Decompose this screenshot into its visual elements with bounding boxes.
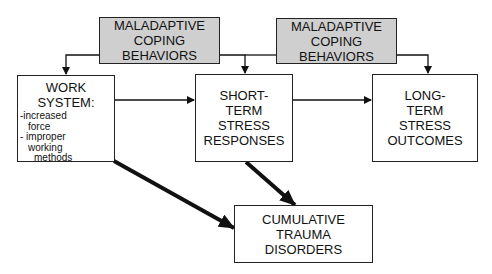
node-label: LONG- — [404, 88, 445, 103]
node-long-term-stress-outcomes: LONG- TERM STRESS OUTCOMES — [372, 74, 478, 162]
node-label: RESPONSES — [204, 133, 285, 148]
arrow-coping-right-to-long-term — [397, 55, 428, 73]
arrow-coping-left-to-short-term — [220, 55, 245, 73]
arrow-work-system-to-ctd — [114, 161, 234, 228]
node-title: SYSTEM: — [37, 95, 94, 110]
arrow-short-term-to-ctd — [246, 162, 295, 205]
node-maladaptive-coping-right: MALADAPTIVE COPING BEHAVIORS — [276, 18, 397, 64]
node-label: DISORDERS — [265, 242, 342, 257]
node-cumulative-trauma-disorders: CUMULATIVE TRAUMA DISORDERS — [234, 205, 373, 263]
node-label: OUTCOMES — [387, 133, 462, 148]
node-label: MALADAPTIVE — [291, 19, 382, 34]
node-label: STRESS — [399, 118, 451, 133]
factor-item: - improper — [20, 132, 72, 143]
node-label: TERM — [226, 103, 263, 118]
arrow-coping-left-to-work-system — [66, 55, 99, 74]
factor-item: methods — [20, 153, 72, 164]
node-label: MALADAPTIVE — [114, 18, 205, 33]
node-label: COPING — [311, 34, 362, 49]
node-label: TRAUMA — [276, 227, 331, 242]
node-label: BEHAVIORS — [122, 48, 197, 63]
node-label: STRESS — [218, 118, 270, 133]
work-system-factor-list: -increased force - improper working meth… — [20, 111, 72, 164]
node-maladaptive-coping-left: MALADAPTIVE COPING BEHAVIORS — [99, 17, 220, 64]
node-label: BEHAVIORS — [299, 49, 374, 64]
node-label: TERM — [407, 103, 444, 118]
node-label: CUMULATIVE — [262, 212, 345, 227]
node-short-term-stress-responses: SHORT- TERM STRESS RESPONSES — [195, 74, 293, 162]
node-label: COPING — [134, 33, 185, 48]
node-work-system: WORK SYSTEM: -increased force - improper… — [17, 75, 115, 162]
node-title: WORK — [46, 80, 86, 95]
node-label: SHORT- — [220, 88, 269, 103]
factor-item: -increased — [20, 111, 72, 122]
